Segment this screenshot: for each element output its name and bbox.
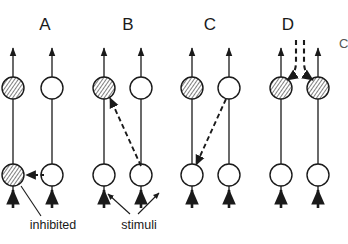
soma-open (218, 77, 240, 99)
soma-hatched-active (307, 77, 329, 99)
soma-open (181, 164, 203, 186)
figure-root: A B (0, 0, 348, 244)
soma-open (93, 164, 115, 186)
panel-letter-D: D (282, 15, 294, 34)
soma-hatched-active (93, 77, 115, 99)
soma-open (218, 164, 240, 186)
soma-hatched-active (181, 77, 203, 99)
panel-letter-B: B (122, 15, 133, 34)
soma-open (130, 77, 152, 99)
soma-open (41, 164, 63, 186)
soma-open (130, 164, 152, 186)
soma-open (41, 77, 63, 99)
soma-open (307, 164, 329, 186)
panel-letter-A: A (39, 15, 51, 34)
cropped-glyph-right-edge: C (339, 36, 348, 51)
stimuli-label: stimuli (121, 218, 156, 232)
soma-hatched-active (270, 77, 292, 99)
soma-open (270, 164, 292, 186)
inhibited-label: inhibited (30, 218, 77, 232)
soma-hatched-inhibited (2, 164, 24, 186)
panel-letter-C: C (204, 15, 216, 34)
neuron-diagram-svg: A B (0, 0, 348, 244)
soma-hatched-active (2, 77, 24, 99)
